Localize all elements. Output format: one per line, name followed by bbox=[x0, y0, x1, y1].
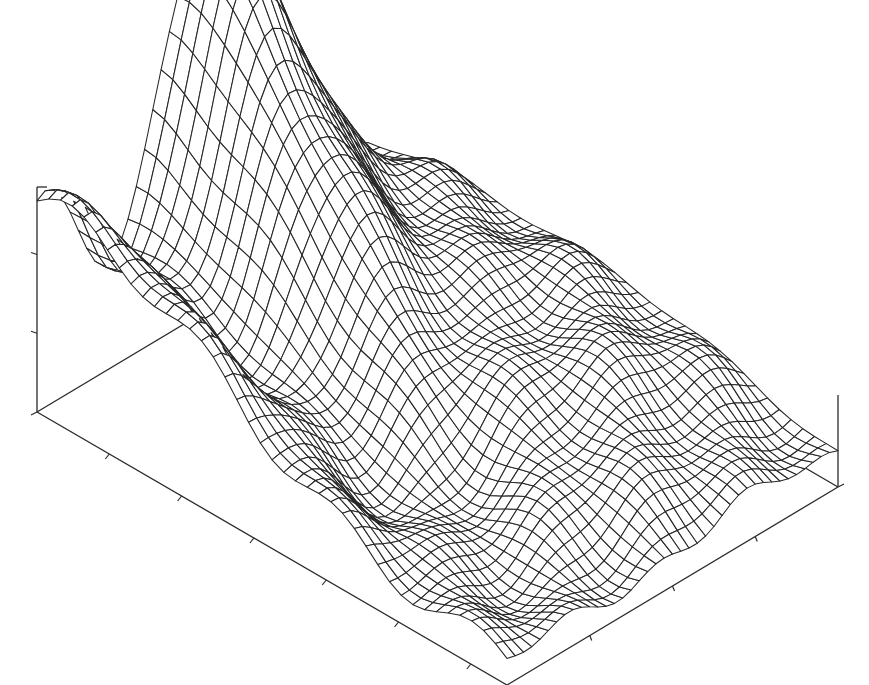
x-tick bbox=[395, 622, 399, 627]
y-tick bbox=[673, 586, 675, 591]
y-tick bbox=[755, 537, 757, 542]
x-tick bbox=[322, 580, 326, 585]
y-tick bbox=[590, 636, 592, 641]
x-tick bbox=[250, 538, 254, 543]
surface-plot bbox=[0, 0, 869, 685]
x-tick bbox=[105, 454, 109, 459]
origin-tick bbox=[31, 412, 37, 415]
x-tick bbox=[467, 664, 471, 669]
z-tick bbox=[31, 331, 37, 333]
y-end-tick bbox=[838, 484, 844, 487]
wireframe-surface bbox=[37, 0, 838, 658]
x-tick bbox=[178, 496, 182, 501]
z-tick bbox=[31, 253, 37, 255]
